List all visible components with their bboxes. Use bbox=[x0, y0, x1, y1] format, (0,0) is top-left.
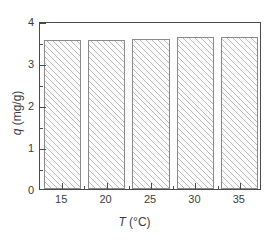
bar-25 bbox=[132, 39, 169, 189]
x-tick bbox=[218, 186, 219, 189]
y-tick bbox=[40, 23, 46, 24]
y-tick-label: 1 bbox=[22, 142, 34, 154]
x-tick-label: 35 bbox=[233, 193, 245, 205]
x-tick bbox=[151, 183, 152, 189]
y-tick bbox=[40, 44, 43, 45]
bar-30 bbox=[177, 37, 214, 189]
x-tick-label: 30 bbox=[188, 193, 200, 205]
y-tick-label: 2 bbox=[22, 100, 34, 112]
y-tick bbox=[40, 65, 46, 66]
x-tick bbox=[173, 186, 174, 189]
x-tick bbox=[84, 186, 85, 189]
figure: T (°C) q (mg/g) 152025303501234 bbox=[0, 0, 269, 244]
bar-20 bbox=[88, 40, 125, 189]
x-tick-label: 20 bbox=[99, 193, 111, 205]
x-axis-symbol: T bbox=[118, 215, 125, 229]
y-tick-label: 0 bbox=[22, 184, 34, 196]
x-axis-title: T (°C) bbox=[0, 215, 269, 229]
y-tick bbox=[40, 86, 43, 87]
x-tick bbox=[107, 183, 108, 189]
y-tick bbox=[40, 170, 43, 171]
y-tick-label: 4 bbox=[22, 16, 34, 28]
x-tick bbox=[62, 183, 63, 189]
y-tick-label: 3 bbox=[22, 58, 34, 70]
y-tick bbox=[40, 107, 46, 108]
y-tick bbox=[40, 128, 43, 129]
bar-15 bbox=[44, 40, 81, 189]
y-tick bbox=[40, 149, 46, 150]
x-tick bbox=[129, 186, 130, 189]
x-axis-unit: (°C) bbox=[129, 215, 150, 229]
y-axis-symbol: q bbox=[10, 129, 24, 136]
x-tick bbox=[240, 183, 241, 189]
x-tick-label: 25 bbox=[144, 193, 156, 205]
plot-area bbox=[39, 22, 261, 190]
x-tick bbox=[195, 183, 196, 189]
x-tick-label: 15 bbox=[55, 193, 67, 205]
bar-35 bbox=[221, 37, 258, 189]
